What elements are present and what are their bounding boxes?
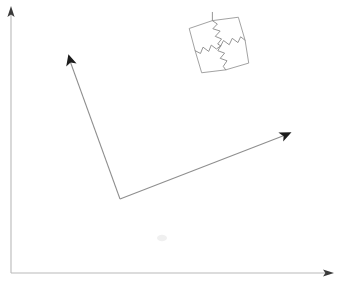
puzzle-cut-left bbox=[195, 43, 222, 55]
vector-pair bbox=[66, 54, 291, 199]
puzzle-cut-bottom bbox=[217, 45, 229, 70]
right-vector-shaft bbox=[120, 136, 283, 199]
right-vector bbox=[120, 132, 292, 199]
puzzle-top-tab bbox=[210, 12, 214, 20]
rotated-puzzle-square bbox=[187, 6, 251, 76]
upper-left-vector-shaft bbox=[70, 62, 120, 200]
vector-diagram bbox=[0, 0, 337, 287]
faint-smudge bbox=[157, 235, 167, 241]
coordinate-axes bbox=[7, 6, 334, 277]
puzzle-cut-top bbox=[211, 19, 224, 46]
upper-left-vector bbox=[66, 54, 120, 199]
puzzle-cut-right bbox=[220, 35, 246, 46]
diagram-canvas bbox=[0, 0, 337, 287]
x-axis bbox=[11, 269, 334, 276]
y-axis bbox=[7, 6, 14, 273]
